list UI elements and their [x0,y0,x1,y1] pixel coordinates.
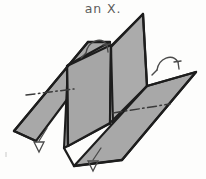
hook-arrow-stem [178,62,179,69]
sketch-page: an X. [0,0,206,179]
hook-arrow-leader [152,70,157,75]
folded-sheet-metal-figure [0,0,206,179]
edge-center-fin-right [110,45,111,124]
panel-group [14,14,196,166]
hook-arrow-barb [174,61,181,62]
scan-speck [5,152,7,157]
edge-valley-left [64,148,74,166]
hook-arrow-curve [157,57,178,70]
edge-center-fin-left [67,66,68,146]
annotation-upper-right-hook-arrow [152,57,181,75]
open-arrow-head [34,142,44,152]
